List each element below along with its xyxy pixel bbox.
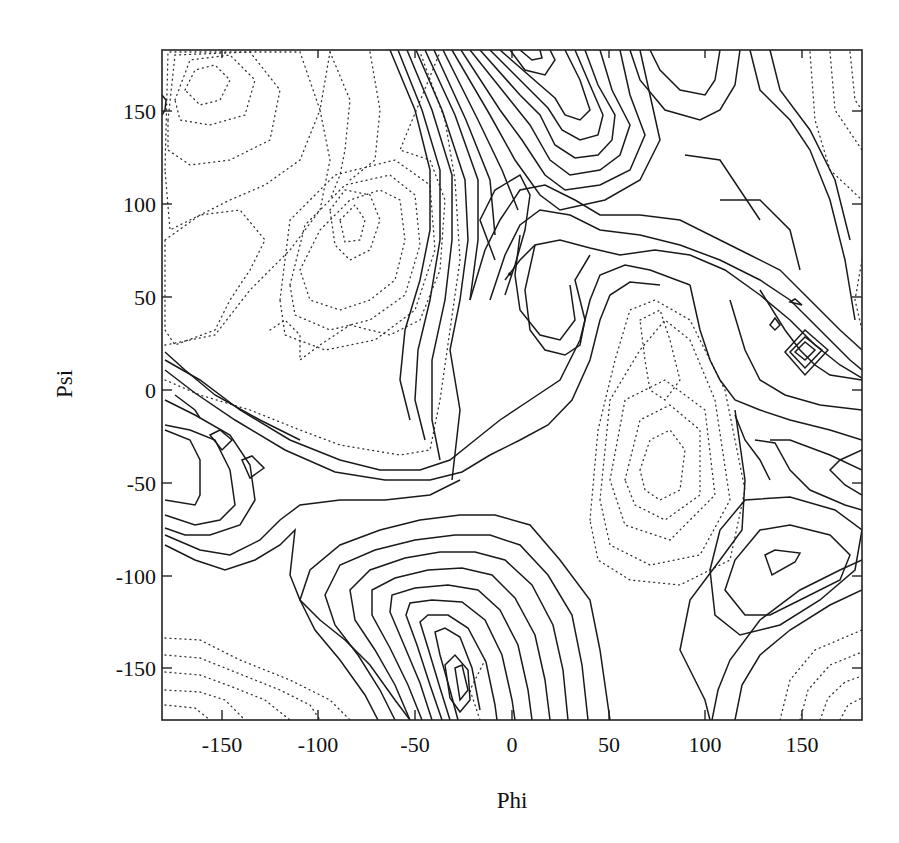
positive-contours — [162, 50, 862, 720]
x-tick-label: 150 — [786, 732, 819, 757]
y-tick-label: 150 — [123, 99, 156, 124]
plot-frame — [162, 50, 862, 720]
x-tick-label: 100 — [689, 732, 722, 757]
x-axis: -150 -100 -50 0 50 100 150 Phi — [202, 50, 819, 813]
y-tick-label: -50 — [127, 471, 156, 496]
ramachandran-contour-plot: -150 -100 -50 0 50 100 150 Phi -150 -100… — [0, 0, 899, 843]
y-tick-label: -150 — [116, 656, 156, 681]
x-tick-label: 50 — [598, 732, 620, 757]
y-axis-title: Psi — [52, 370, 77, 398]
plot-area — [162, 50, 862, 720]
y-tick-label: 0 — [145, 378, 156, 403]
negative-contours — [165, 52, 862, 720]
y-tick-label: -100 — [116, 564, 156, 589]
y-tick-label: 50 — [134, 285, 156, 310]
x-axis-title: Phi — [497, 788, 528, 813]
y-tick-label: 100 — [123, 192, 156, 217]
x-tick-label: -150 — [202, 732, 242, 757]
x-tick-label: -50 — [400, 732, 429, 757]
x-tick-label: 0 — [507, 732, 518, 757]
x-tick-label: -100 — [298, 732, 338, 757]
